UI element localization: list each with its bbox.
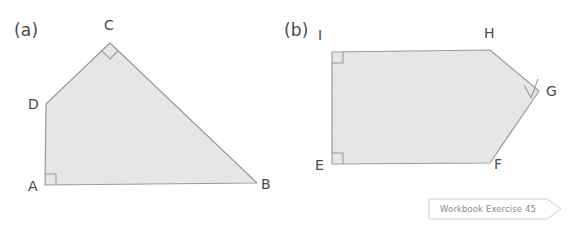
shape-b-pentagon [332,50,539,164]
part-label-b: (b) [284,20,309,40]
shape-a-quadrilateral [45,43,257,185]
workbook-exercise-banner[interactable]: Workbook Exercise 45 [429,199,561,219]
vertex-label-b: B [261,176,271,192]
vertex-label-i: I [318,27,322,43]
part-label-a: (a) [14,20,38,40]
vertex-label-a: A [28,178,38,194]
vertex-label-f: F [494,156,502,172]
vertex-label-d: D [28,96,39,112]
vertex-label-g: G [546,83,557,99]
workbook-exercise-banner-label: Workbook Exercise 45 [429,199,547,219]
vertex-label-e: E [315,157,324,173]
vertex-label-h: H [484,25,495,41]
figure-page: (a) (b) A B C D E F G H I Workbook Exerc… [0,0,573,229]
vertex-label-c: C [104,17,114,33]
